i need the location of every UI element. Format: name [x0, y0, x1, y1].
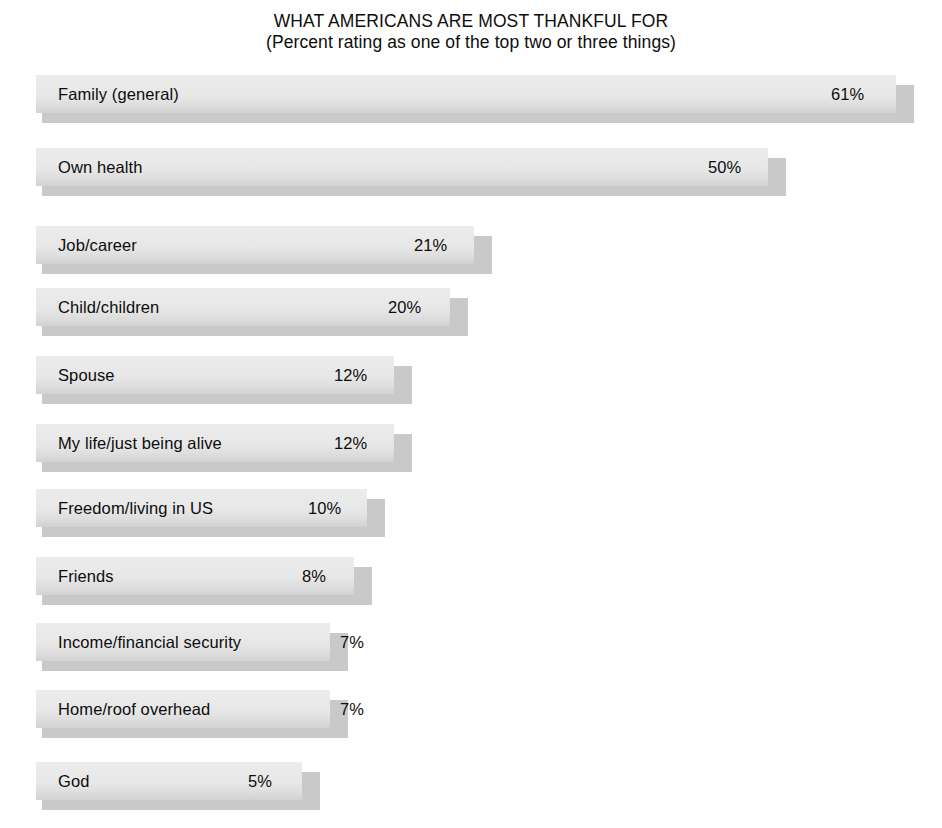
bar-chart-plot-area: Family (general)61%Own health50%Job/care…	[0, 0, 942, 828]
bar-category-label: My life/just being alive	[58, 424, 222, 462]
bar-category-label: Job/career	[58, 226, 137, 264]
bar-value-label: 20%	[388, 288, 421, 326]
bar-row[interactable]: Child/children20%	[36, 288, 582, 340]
bar-row[interactable]: My life/just being alive12%	[36, 424, 526, 476]
bar-value-label: 10%	[308, 489, 341, 527]
bar-category-label: Child/children	[58, 288, 159, 326]
bar-value-label: 21%	[414, 226, 447, 264]
bar-face[interactable]	[36, 148, 768, 186]
bar-value-label: 61%	[831, 75, 864, 113]
bar-value-label: 12%	[334, 424, 367, 462]
bar-row[interactable]: Family (general)61%	[36, 75, 942, 127]
bar-row[interactable]: Home/roof overhead7%	[36, 690, 462, 742]
bar-row[interactable]: Income/financial security7%	[36, 623, 462, 675]
bar-category-label: Income/financial security	[58, 623, 241, 661]
bar-category-label: Home/roof overhead	[58, 690, 210, 728]
bar-category-label: Family (general)	[58, 75, 179, 113]
bar-row[interactable]: Job/career21%	[36, 226, 606, 278]
bar-category-label: Own health	[58, 148, 142, 186]
bar-category-label: Friends	[58, 557, 114, 595]
bar-value-label: 5%	[248, 762, 272, 800]
bar-row[interactable]: God5%	[36, 762, 434, 814]
bar-row[interactable]: Friends8%	[36, 557, 486, 609]
bar-category-label: Freedom/living in US	[58, 489, 213, 527]
bar-value-label: 7%	[340, 690, 364, 728]
bar-value-label: 50%	[708, 148, 741, 186]
bar-value-label: 7%	[340, 623, 364, 661]
bar-row[interactable]: Freedom/living in US10%	[36, 489, 499, 541]
bar-category-label: Spouse	[58, 356, 115, 394]
bar-row[interactable]: Own health50%	[36, 148, 900, 200]
chart-root: WHAT AMERICANS ARE MOST THANKFUL FOR (Pe…	[0, 0, 942, 828]
bar-row[interactable]: Spouse12%	[36, 356, 526, 408]
bar-category-label: God	[58, 762, 90, 800]
bar-value-label: 12%	[334, 356, 367, 394]
bar-value-label: 8%	[302, 557, 326, 595]
